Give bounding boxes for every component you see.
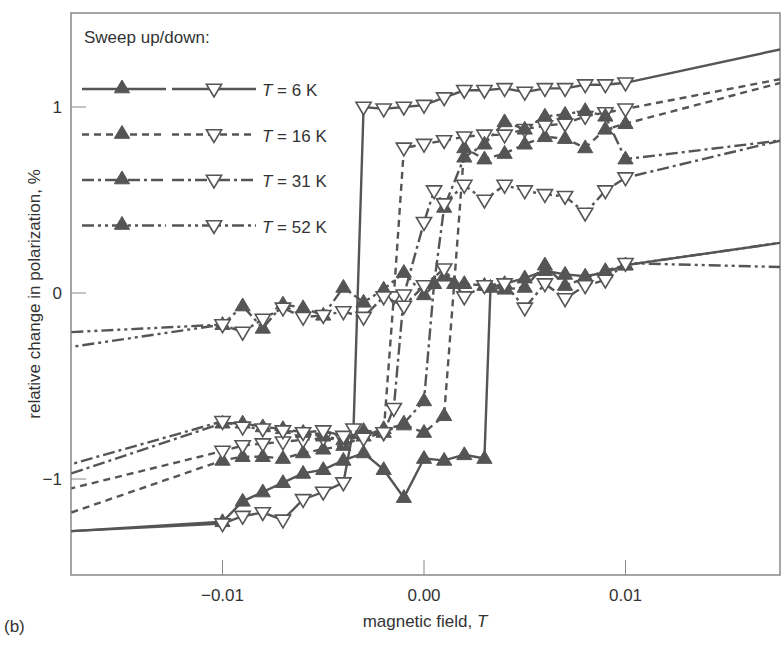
y-tick-label: 0 (53, 284, 62, 303)
y-tick-label: 1 (53, 98, 62, 117)
legend-label: T = 31 K (262, 172, 327, 191)
x-tick-label: 0.00 (407, 586, 440, 605)
y-tick-label: −1 (43, 470, 62, 489)
legend-label: T = 52 K (262, 218, 327, 237)
y-axis-label: relative change in polarization, % (25, 169, 44, 418)
legend-label: T = 6 K (262, 81, 318, 100)
x-axis-label: magnetic field, T (363, 612, 489, 631)
x-tick-label: −0.01 (201, 586, 244, 605)
x-tick-label: 0.01 (609, 586, 642, 605)
legend-title: Sweep up/down: (84, 28, 210, 47)
panel-label: (b) (4, 617, 25, 636)
legend-label: T = 16 K (262, 127, 327, 146)
chart: −0.010.000.01−101 Sweep up/down: T = 6 K… (0, 0, 783, 654)
